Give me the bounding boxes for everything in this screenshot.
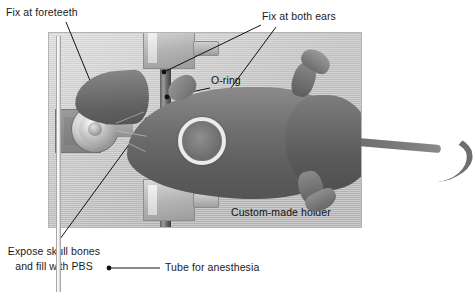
label-expose-skull-bones-line2: and fill with PBS [15, 260, 93, 272]
label-fix-at-foreteeth: Fix at foreteeth [6, 6, 78, 19]
anesthesia-tube [56, 36, 61, 292]
marker-fix-at-both-ears-upper [162, 70, 167, 75]
label-fix-at-both-ears: Fix at both ears [262, 10, 336, 23]
o-ring [178, 117, 226, 165]
label-tube-for-anesthesia: Tube for anesthesia [165, 261, 259, 274]
label-expose-skull-bones-line1: Expose skull bones [8, 245, 100, 257]
leader-fix-at-both-ears-upper [164, 25, 261, 72]
mouse-hindquarters [285, 95, 361, 191]
label-expose-skull-bones: Expose skull bones and fill with PBS [2, 244, 106, 274]
marker-tube-for-anesthesia [107, 266, 112, 271]
label-o-ring: O-ring [211, 74, 241, 87]
